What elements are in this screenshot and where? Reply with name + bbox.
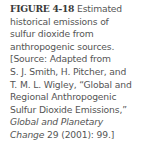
caption-line-2: historical emissions of	[10, 16, 144, 29]
journal-title-line: Global and Planetary	[10, 116, 144, 129]
caption-title-start: Estimated	[74, 3, 122, 14]
citation-details: 29 (2001): 99.]	[44, 129, 114, 140]
caption-line-1: FIGURE 4-18 Estimated	[10, 3, 144, 16]
caption-line-8: Regional Anthropogenic	[10, 91, 144, 104]
caption-line-5: [Source: Adapted from	[10, 53, 144, 66]
caption-line-9: Sulfur Dioxide Emissions,”	[10, 104, 144, 117]
caption-line-4: anthropogenic sources.	[10, 41, 144, 54]
figure-caption: FIGURE 4-18 Estimated historical emissio…	[10, 3, 144, 142]
caption-line-7: T. M. L. Wigley, “Global and	[10, 79, 144, 92]
journal-title-end: Change	[10, 129, 44, 140]
citation-line: Change 29 (2001): 99.]	[10, 129, 144, 142]
caption-line-6: S. J. Smith, H. Pitcher, and	[10, 66, 144, 79]
figure-label: FIGURE 4-18	[10, 3, 74, 14]
caption-line-3: sulfur dioxide from	[10, 28, 144, 41]
